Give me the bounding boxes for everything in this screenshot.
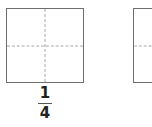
fraction-numerator: 1 (40, 86, 50, 101)
fraction-label: 1 4 (33, 86, 57, 121)
horizontal-dashed-divider (134, 45, 152, 46)
fraction-denominator: 4 (40, 106, 50, 121)
square-divided-into-quarters-1 (6, 8, 84, 83)
square-divided-into-quarters-2 (133, 8, 152, 83)
horizontal-dashed-divider (7, 45, 83, 46)
